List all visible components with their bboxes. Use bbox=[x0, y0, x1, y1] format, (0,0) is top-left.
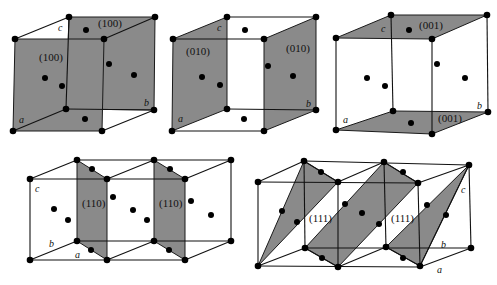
axis-a-label: a bbox=[437, 264, 442, 275]
atoms bbox=[27, 157, 235, 264]
axis-a-label: a bbox=[75, 249, 80, 260]
axis-b-label: b bbox=[306, 98, 311, 109]
axis-c-label: c bbox=[35, 183, 40, 194]
miller-planes-diagram: (100) (100) c b a (010) (010) c b a bbox=[0, 0, 497, 285]
axis-b-label: b bbox=[477, 100, 482, 111]
panel-010: (010) (010) c b a bbox=[169, 14, 320, 135]
axis-b-label: b bbox=[49, 238, 54, 249]
panel-001: (001) (001) c b a bbox=[333, 12, 492, 138]
plane-label: (100) bbox=[98, 17, 122, 30]
axis-a-label: a bbox=[178, 113, 183, 124]
plane-label: (001) bbox=[419, 19, 443, 32]
plane-label: (100) bbox=[39, 51, 63, 64]
axis-a-label: a bbox=[343, 114, 348, 125]
plane-label: (111) bbox=[309, 212, 332, 225]
plane-001-top bbox=[336, 15, 487, 39]
plane-label: (001) bbox=[438, 112, 462, 125]
axis-a-label: a bbox=[19, 114, 24, 125]
plane-label: (110) bbox=[82, 197, 106, 210]
axis-c-label: c bbox=[381, 23, 386, 34]
panel-110: (110) (110) c b a bbox=[27, 157, 235, 264]
plane-label: (110) bbox=[159, 197, 183, 210]
plane-label: (010) bbox=[186, 45, 210, 58]
plane-110-2 bbox=[154, 160, 185, 260]
axis-c-label: c bbox=[58, 22, 63, 33]
plane-label: (111) bbox=[391, 212, 414, 225]
plane-label: (010) bbox=[286, 42, 310, 55]
axis-c-label: c bbox=[217, 22, 222, 33]
panel-100: (100) (100) c b a bbox=[10, 14, 159, 135]
axis-b-label: b bbox=[144, 97, 149, 108]
panel-111: (111) (111) c b a bbox=[255, 158, 475, 275]
axis-b-label: b bbox=[441, 239, 446, 250]
plane-010-right bbox=[264, 17, 316, 131]
axis-c-label: c bbox=[461, 184, 466, 195]
plane-110-1 bbox=[77, 160, 107, 260]
